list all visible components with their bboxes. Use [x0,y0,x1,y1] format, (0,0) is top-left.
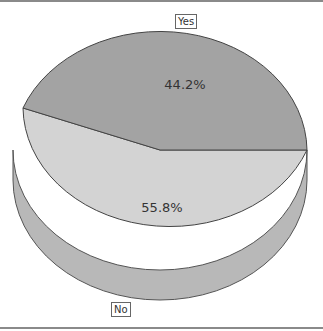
legend-no: No [111,302,131,317]
label-no-pct: 55.8% [141,200,182,215]
label-yes-pct: 44.2% [164,77,205,92]
legend-yes: Yes [175,14,197,29]
pie-chart: 44.2% 55.8% [0,0,323,331]
